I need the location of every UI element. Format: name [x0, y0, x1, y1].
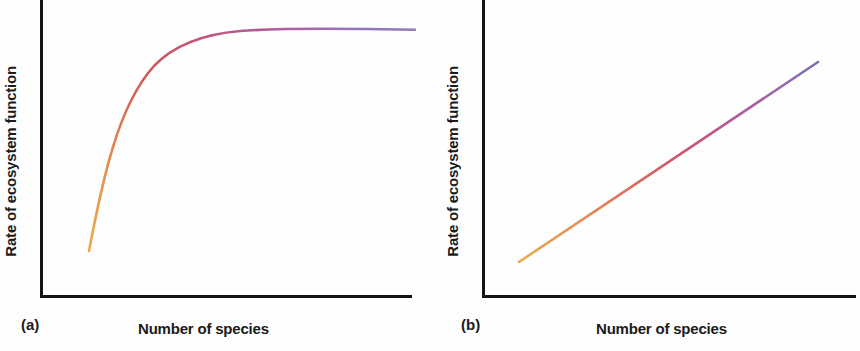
data-curve-a — [89, 29, 415, 251]
plot-b-svg — [430, 0, 860, 351]
chart-panel-b: Rate of ecosystem function Number of spe… — [430, 0, 860, 351]
data-line-b — [519, 62, 818, 262]
x-axis-label-a: Number of species — [138, 320, 269, 337]
plot-a-svg — [0, 0, 430, 351]
panel-tag-b: (b) — [461, 316, 480, 333]
y-axis-label-b: Rate of ecosystem function — [444, 66, 461, 257]
x-axis-label-b: Number of species — [596, 320, 727, 337]
y-axis-label-a: Rate of ecosystem function — [2, 66, 19, 257]
panel-tag-a: (a) — [21, 316, 39, 333]
chart-panel-a: Rate of ecosystem function Number of spe… — [0, 0, 430, 351]
figure-container: Rate of ecosystem function Number of spe… — [0, 0, 860, 351]
